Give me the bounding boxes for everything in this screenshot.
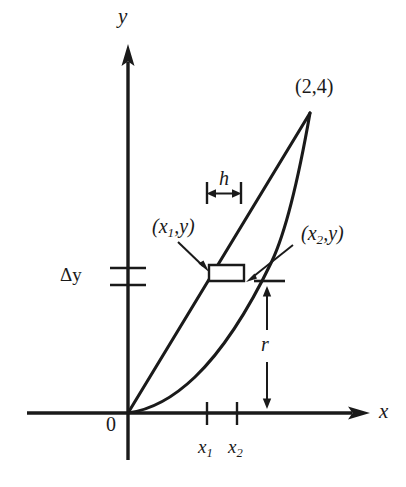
x-tick-label-x1: x1 <box>198 437 213 459</box>
representative-strip-group <box>209 265 244 281</box>
left-point-suffix: ,y) <box>174 215 195 237</box>
x-axis-label: x <box>379 401 388 422</box>
x-tick-1-subscript: 1 <box>206 446 212 460</box>
left-point-prefix: (x <box>152 215 168 237</box>
x-tick-2-subscript: 2 <box>236 446 242 460</box>
intersection-point-label: (2,4) <box>295 76 333 96</box>
x1-leader-group <box>178 242 209 272</box>
y-axis-label: y <box>118 6 127 27</box>
origin-label: 0 <box>106 414 116 434</box>
math-diagram: y x 0 (2,4) h r Δy (x1,y) (x2,y) x1 x2 <box>0 0 406 487</box>
r-arrowhead-top <box>263 286 271 297</box>
axes-group <box>27 44 370 460</box>
radius-label: r <box>261 334 269 354</box>
right-point-suffix: ,y) <box>323 222 344 244</box>
delta-y-label: Δy <box>60 265 82 284</box>
right-strip-endpoint-label: (x2,y) <box>301 223 344 246</box>
r-arrowhead-bottom <box>263 399 271 410</box>
left-strip-endpoint-label: (x1,y) <box>152 216 195 239</box>
r-measure-group <box>254 281 285 409</box>
x-tick-label-x2: x2 <box>228 437 243 459</box>
curves-group <box>128 113 310 413</box>
x2-leader-group <box>246 245 293 282</box>
strip-rectangle <box>209 265 244 281</box>
x1-leader-line <box>178 242 203 266</box>
strip-width-label: h <box>219 168 229 188</box>
line-curve-y-equals-2x <box>128 113 310 413</box>
diagram-canvas <box>0 0 406 487</box>
x2-leader-line <box>254 245 293 276</box>
right-point-prefix: (x <box>301 222 317 244</box>
